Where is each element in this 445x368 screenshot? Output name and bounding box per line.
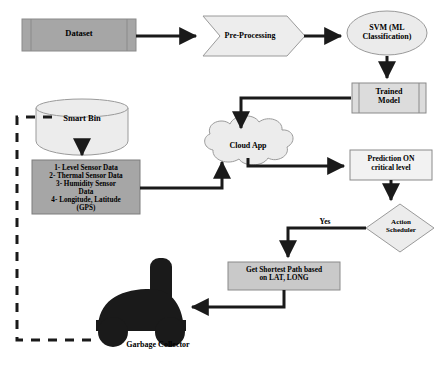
edge-sensors-to-cloud [140,162,222,188]
flowchart-svg [0,0,445,368]
node-sensor-data[interactable] [32,160,140,214]
flowchart-canvas: Dataset Pre-Processing SVM (ML Classific… [0,0,445,368]
node-shortest-path[interactable] [228,262,340,290]
node-garbage-collector-truck[interactable] [96,258,186,347]
node-trained-model[interactable] [352,83,426,113]
node-action-scheduler[interactable] [366,204,434,252]
node-prediction[interactable] [350,150,432,180]
edge-shortest-path-to-truck [192,290,284,307]
node-svm[interactable] [347,11,427,55]
edge-action-to-shortest-path [288,228,366,257]
node-preprocessing[interactable] [203,16,305,56]
node-smart-bin[interactable] [36,99,128,155]
node-dataset[interactable] [22,19,136,51]
node-cloud-app[interactable] [205,116,293,165]
